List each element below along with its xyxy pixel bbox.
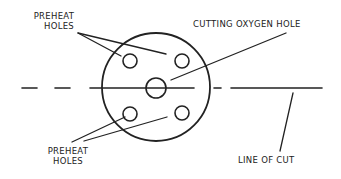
tip-outline [102, 33, 210, 141]
preheat-hole-lower-left [123, 107, 137, 121]
label-line: PREHEAT [26, 11, 82, 21]
preheat-holes-top-label: PREHEAT HOLES [26, 11, 82, 31]
preheat-hole-upper-left [123, 54, 137, 68]
label-line: HOLES [36, 21, 82, 31]
preheat-hole-upper-right [175, 54, 189, 68]
label-line: HOLES [40, 156, 96, 166]
cutting-oxygen-hole-label: CUTTING OXYGEN HOLE [193, 19, 301, 29]
preheat-hole-lower-right [175, 106, 189, 120]
preheat-holes-bottom-label: PREHEAT HOLES [40, 146, 96, 166]
label-line: PREHEAT [40, 146, 96, 156]
line-of-cut-label: LINE OF CUT [238, 155, 295, 165]
